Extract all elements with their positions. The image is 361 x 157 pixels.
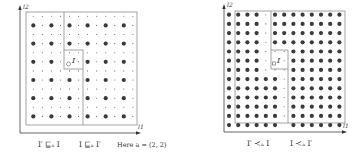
large-dot xyxy=(337,40,341,44)
large-dot xyxy=(86,96,90,100)
region-label: I xyxy=(276,56,281,65)
small-dot xyxy=(60,34,61,35)
small-dot xyxy=(96,116,97,117)
large-dot xyxy=(301,40,305,44)
small-dot xyxy=(284,97,285,98)
small-dot xyxy=(96,79,97,80)
large-dot xyxy=(49,23,53,27)
large-dot xyxy=(86,42,90,46)
small-dot xyxy=(132,43,133,44)
small-dot xyxy=(265,42,266,43)
large-dot xyxy=(245,13,249,17)
large-dot xyxy=(236,95,240,99)
large-dot xyxy=(255,86,259,90)
large-dot xyxy=(227,105,231,109)
small-dot xyxy=(114,25,115,26)
small-dot xyxy=(105,52,106,53)
small-dot xyxy=(132,70,133,71)
small-dot xyxy=(105,16,106,17)
small-dot xyxy=(284,115,285,116)
large-dot xyxy=(236,13,240,17)
large-dot xyxy=(310,40,314,44)
large-dot xyxy=(319,114,323,118)
large-dot xyxy=(236,49,240,53)
region-label: I xyxy=(71,56,76,65)
large-dot xyxy=(236,59,240,63)
large-dot xyxy=(291,105,295,109)
large-dot xyxy=(264,95,268,99)
large-dot xyxy=(122,78,126,82)
large-dot xyxy=(227,59,231,63)
small-dot xyxy=(78,16,79,17)
large-dot xyxy=(264,105,268,109)
large-dot xyxy=(319,123,323,127)
large-dot xyxy=(328,49,332,53)
large-dot xyxy=(273,123,277,127)
large-dot xyxy=(31,96,35,100)
small-dot xyxy=(78,116,79,117)
small-dot xyxy=(265,23,266,24)
small-dot xyxy=(60,70,61,71)
y-axis-label: l2 xyxy=(227,1,233,8)
small-dot xyxy=(265,51,266,52)
large-dot xyxy=(86,114,90,118)
large-dot xyxy=(319,68,323,72)
large-dot xyxy=(49,60,53,64)
small-dot xyxy=(132,107,133,108)
large-dot xyxy=(227,13,231,17)
large-dot xyxy=(86,60,90,64)
small-dot xyxy=(132,34,133,35)
large-dot xyxy=(227,123,231,127)
outer-box xyxy=(26,12,137,125)
large-dot xyxy=(245,22,249,26)
large-dot xyxy=(245,31,249,35)
large-dot xyxy=(291,114,295,118)
large-dot xyxy=(31,60,35,64)
large-dot xyxy=(236,22,240,26)
large-dot xyxy=(328,31,332,35)
large-dot xyxy=(273,13,277,17)
large-dot xyxy=(328,86,332,90)
small-dot xyxy=(60,116,61,117)
large-dot xyxy=(291,31,295,35)
large-dot xyxy=(273,31,277,35)
caption-right: I ≺ₐ I′ xyxy=(290,139,313,148)
small-dot xyxy=(123,70,124,71)
large-dot xyxy=(301,114,305,118)
small-dot xyxy=(42,25,43,26)
small-dot xyxy=(114,34,115,35)
large-dot xyxy=(310,114,314,118)
small-dot xyxy=(42,16,43,17)
small-dot xyxy=(114,70,115,71)
x-axis-label: l1 xyxy=(138,123,144,130)
small-dot xyxy=(123,107,124,108)
large-dot xyxy=(273,105,277,109)
small-dot xyxy=(60,16,61,17)
origin-square-icon xyxy=(273,62,276,65)
small-dot xyxy=(60,25,61,26)
small-dot xyxy=(78,79,79,80)
small-dot xyxy=(51,70,52,71)
small-dot xyxy=(42,61,43,62)
left-panel: I l2 l1 I′ ⊑ₐ I I ⊑ₐ I′ Here a = (2, 2) xyxy=(18,3,167,149)
large-dot xyxy=(49,42,53,46)
small-dot xyxy=(105,34,106,35)
small-dot xyxy=(33,107,34,108)
large-dot xyxy=(328,22,332,26)
small-dot xyxy=(42,79,43,80)
large-dot xyxy=(310,49,314,53)
small-dot xyxy=(42,107,43,108)
y-axis-arrow-icon xyxy=(18,5,21,10)
x-axis-arrow-icon xyxy=(136,131,141,134)
small-dot xyxy=(114,98,115,99)
large-dot xyxy=(328,13,332,17)
small-dot xyxy=(69,107,70,108)
large-dot xyxy=(273,95,277,99)
small-dot xyxy=(96,70,97,71)
small-dot xyxy=(33,70,34,71)
large-dot xyxy=(227,49,231,53)
large-dot xyxy=(236,31,240,35)
large-dot xyxy=(31,23,35,27)
small-dot xyxy=(132,79,133,80)
large-dot xyxy=(291,40,295,44)
